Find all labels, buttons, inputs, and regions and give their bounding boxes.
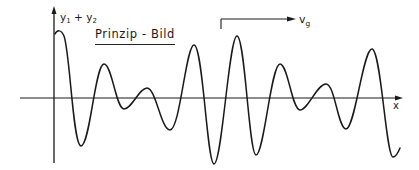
- group-velocity-arrow: [221, 17, 296, 30]
- wave-diagram: [0, 0, 419, 170]
- x-axis: [20, 96, 403, 101]
- diagram-title: Prinzip - Bild: [95, 29, 175, 45]
- y-axis-arrowhead-icon: [52, 6, 57, 14]
- x-axis-label: x: [393, 101, 399, 111]
- y-axis: [52, 6, 57, 163]
- y-axis-label: y1 + y2: [60, 12, 97, 25]
- arrowhead-icon: [287, 17, 296, 22]
- group-velocity-label: vg: [299, 14, 310, 28]
